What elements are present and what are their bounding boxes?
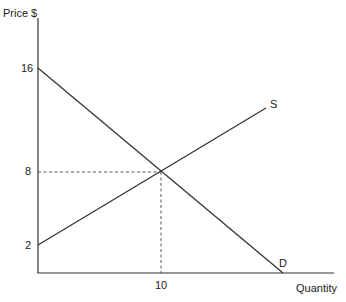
supply-demand-chart: Price $ Quantity 16 8 2 10 S D: [0, 0, 346, 302]
y-tick-2: 2: [25, 239, 31, 251]
demand-label: D: [279, 257, 287, 269]
y-tick-8: 8: [25, 165, 31, 177]
supply-label: S: [270, 98, 277, 110]
demand-curve: [38, 68, 283, 273]
y-tick-16: 16: [21, 62, 33, 74]
x-tick-10: 10: [155, 279, 167, 291]
y-axis-label: Price $: [3, 7, 37, 19]
x-axis-label: Quantity: [296, 282, 337, 294]
supply-curve: [38, 108, 266, 245]
